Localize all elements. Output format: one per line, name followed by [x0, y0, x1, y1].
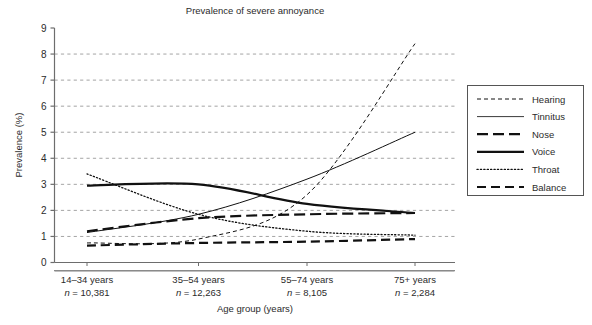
x-category-label: 35–54 years [172, 274, 225, 285]
legend-label-voice: Voice [532, 146, 555, 157]
chart-title: Prevalence of severe annoyance [186, 5, 324, 16]
x-category-label: 14–34 years [61, 274, 114, 285]
y-tick-label: 8 [41, 49, 47, 60]
legend-box [468, 86, 584, 196]
y-tick-label: 1 [41, 231, 47, 242]
y-tick-label: 6 [41, 101, 47, 112]
y-axis-title: Prevalence (%) [13, 113, 24, 178]
x-category-count: n = 12,263 [176, 287, 221, 298]
x-category-count: n = 2,284 [395, 287, 435, 298]
y-tick-label: 4 [41, 153, 47, 164]
legend-label-throat: Throat [532, 164, 560, 175]
x-category-count: n = 8,105 [287, 287, 327, 298]
y-tick-label: 0 [41, 257, 47, 268]
y-tick-label: 9 [41, 23, 47, 34]
x-axis-title: Age group (years) [217, 303, 293, 314]
legend-label-hearing: Hearing [532, 94, 565, 105]
y-tick-label: 2 [41, 205, 47, 216]
y-tick-label: 7 [41, 75, 47, 86]
y-tick-label: 5 [41, 127, 47, 138]
legend-label-tinnitus: Tinnitus [532, 111, 565, 122]
x-category-label: 75+ years [394, 274, 436, 285]
x-category-count: n = 10,381 [64, 287, 109, 298]
y-tick-label: 3 [41, 179, 47, 190]
legend-label-balance: Balance [532, 182, 566, 193]
x-category-label: 55–74 years [281, 274, 334, 285]
chart-figure: Prevalence of severe annoyance Prevalenc… [0, 0, 592, 325]
legend-label-nose: Nose [532, 129, 554, 140]
